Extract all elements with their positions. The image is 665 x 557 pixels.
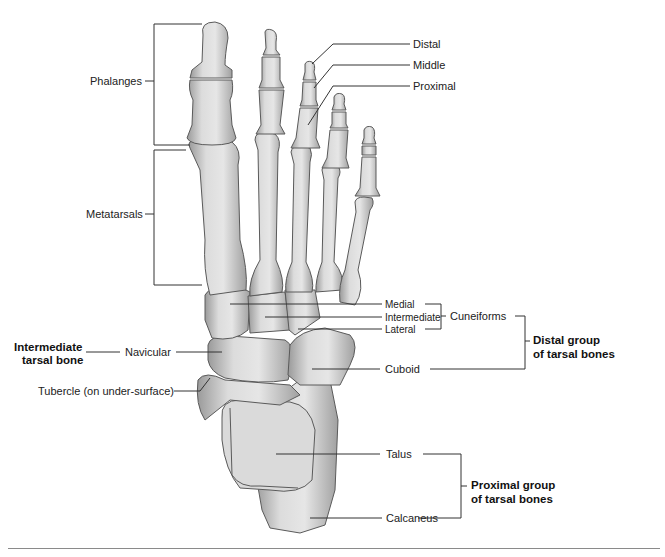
label-metatarsals: Metatarsals <box>86 208 143 221</box>
toe3-proximal <box>291 108 320 148</box>
label-proximal-group-line2: of tarsal bones <box>471 492 553 506</box>
toe5-distal <box>362 126 376 144</box>
toe4-proximal <box>322 130 349 168</box>
label-calcaneus: Calcaneus <box>386 512 438 525</box>
label-proximal-phalanx: Proximal <box>413 80 456 93</box>
lateral-cuneiform <box>285 290 320 335</box>
label-medial-cuneiform: Medial <box>385 298 414 311</box>
toe3-middle <box>300 82 318 106</box>
toe3-distal <box>303 61 316 80</box>
label-navicular: Navicular <box>125 346 171 359</box>
toe4-middle <box>330 112 348 128</box>
intermediate-cuneiform <box>248 292 290 333</box>
toe2-distal <box>263 29 280 55</box>
label-phalanges: Phalanges <box>90 75 142 88</box>
metatarsal-5 <box>340 197 374 305</box>
toe2-proximal <box>256 90 285 134</box>
toe4-distal <box>332 93 346 110</box>
bottom-divider <box>8 548 660 549</box>
talus-bone <box>222 400 315 491</box>
label-distal-group-line2: of tarsal bones <box>533 347 615 361</box>
label-cuneiforms: Cuneiforms <box>450 310 506 323</box>
label-distal-phalanx: Distal <box>413 38 441 51</box>
toe5-middle <box>362 146 376 155</box>
hallux-proximal <box>187 80 236 145</box>
metatarsal-1 <box>189 140 247 295</box>
label-talus: Talus <box>386 448 412 461</box>
label-lateral-cuneiform: Lateral <box>385 323 416 336</box>
metatarsal-3 <box>286 146 313 292</box>
label-proximal-group-line1: Proximal group <box>471 478 555 492</box>
tarsal-bones <box>197 285 355 533</box>
label-intermediate-tarsal-line1: Intermediate <box>14 340 82 354</box>
toe5-proximal <box>355 157 380 196</box>
label-cuboid: Cuboid <box>385 363 420 376</box>
label-tubercle: Tubercle (on under-surface) <box>38 385 174 398</box>
label-middle-phalanx: Middle <box>413 59 445 72</box>
hallux-distal <box>190 22 232 78</box>
cuboid-bone <box>288 328 355 385</box>
navicular-bone <box>208 336 293 382</box>
metatarsal-4 <box>316 165 343 292</box>
label-intermediate-tarsal-line2: tarsal bone <box>22 353 83 367</box>
toe2-middle <box>259 57 284 88</box>
metatarsal-2 <box>250 132 283 296</box>
label-distal-group-line1: Distal group <box>533 333 600 347</box>
